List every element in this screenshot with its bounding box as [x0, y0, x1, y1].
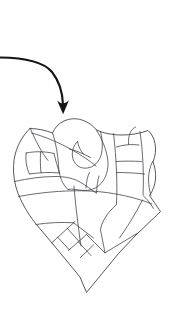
divider-strip-f — [81, 245, 94, 258]
divider-hook-inner-tail — [78, 142, 91, 158]
divider-wedge-notch — [144, 196, 154, 209]
arrow-shaft — [0, 58, 63, 105]
divider-right-vert-outer — [140, 132, 143, 196]
region-dividers — [14, 127, 153, 258]
region-diagram-canvas: Subdivided region outline with pointer a… — [0, 0, 171, 309]
divider-strip-a — [52, 222, 76, 244]
divider-upper-left-diagonal — [32, 133, 97, 166]
divider-right-edge-sliver — [149, 162, 153, 196]
divider-strip-c — [67, 228, 80, 243]
divider-mid-vert-a — [86, 173, 90, 189]
divider-right-cell-top — [117, 145, 140, 147]
divider-mid-band-lower — [19, 191, 153, 204]
divider-cell-left-vert-b — [40, 152, 41, 173]
divider-strip-top — [74, 223, 94, 238]
divider-right-cell-bottom — [116, 173, 144, 175]
divider-central-hook-notch — [72, 132, 102, 169]
curved-down-arrow — [0, 58, 69, 115]
divider-lower-left-panel-bottom — [36, 222, 74, 224]
divider-strip-b — [58, 237, 70, 250]
divider-cell-left-top — [26, 152, 54, 154]
divider-right-cell-curve — [128, 127, 135, 144]
divider-mid-vert-b — [97, 176, 100, 193]
divider-cell-left-bottom — [30, 172, 60, 174]
divider-cell-left-vert-a — [26, 153, 30, 174]
divider-central-left — [53, 133, 68, 190]
divider-wedge-left — [101, 205, 117, 253]
